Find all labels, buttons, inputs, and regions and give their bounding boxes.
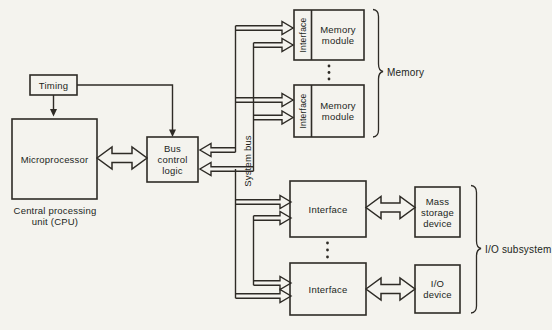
group-braces bbox=[373, 10, 481, 314]
timing-to-buscontrol-arrowhead bbox=[169, 130, 176, 138]
memory-module-1-label: Memory module bbox=[320, 24, 356, 46]
io-interface-1-label: Interface bbox=[309, 204, 348, 215]
arrow-to-io-interface1-lower bbox=[254, 212, 292, 225]
arrow-to-io-interface1-upper bbox=[236, 196, 292, 209]
io-interface-2-label: Interface bbox=[309, 284, 348, 295]
timing-to-buscontrol-line bbox=[77, 85, 173, 130]
io-ellipsis-dot bbox=[326, 249, 329, 252]
memory-group-brace bbox=[373, 10, 383, 138]
memory-module-2-interface-label: Interface bbox=[298, 94, 309, 129]
block-diagram: Timing Microprocessor Central processing… bbox=[0, 0, 552, 330]
arrow-to-memory1-lower bbox=[254, 39, 294, 52]
system-bus-label: System bus bbox=[242, 135, 253, 187]
memory-module-1-interface-label: Interface bbox=[298, 18, 309, 53]
mass-storage-label: Mass storage device bbox=[421, 195, 454, 228]
microprocessor-label: Microprocessor bbox=[21, 154, 89, 165]
timing-to-cpu-arrowhead bbox=[50, 109, 57, 117]
interface2-iodevice-double-arrow bbox=[366, 278, 415, 300]
arrow-to-io-interface2-upper bbox=[254, 277, 292, 290]
io-group-brace bbox=[471, 186, 481, 314]
io-ellipsis-dot bbox=[326, 242, 329, 245]
double-arrows bbox=[97, 147, 415, 300]
arrow-to-io-interface2-lower bbox=[236, 290, 292, 303]
bus-control-label: Bus control logic bbox=[158, 143, 188, 176]
diagram-canvas bbox=[0, 0, 552, 330]
arrow-to-memory2-upper bbox=[236, 94, 294, 107]
io-device-label: I/O device bbox=[423, 278, 452, 300]
timing-label: Timing bbox=[39, 80, 68, 91]
memory-ellipsis-dot bbox=[328, 78, 331, 81]
arrow-to-memory2-lower bbox=[254, 111, 294, 124]
memory-module-2-label: Memory module bbox=[320, 100, 356, 122]
memory-ellipsis-dot bbox=[328, 65, 331, 68]
memory-group-label: Memory bbox=[387, 67, 424, 78]
io-group-label: I/O subsystem bbox=[485, 244, 552, 255]
arrow-to-bus-control-upper bbox=[200, 144, 236, 157]
ellipsis-dots bbox=[326, 65, 330, 259]
timing-connectors bbox=[50, 85, 176, 137]
interface1-massstorage-double-arrow bbox=[366, 197, 415, 219]
arrow-to-memory1-upper bbox=[236, 22, 294, 35]
io-ellipsis-dot bbox=[326, 256, 329, 259]
cpu-buscontrol-double-arrow bbox=[97, 147, 147, 169]
cpu-caption: Central processing unit (CPU) bbox=[14, 205, 97, 227]
memory-ellipsis-dot bbox=[328, 71, 331, 74]
